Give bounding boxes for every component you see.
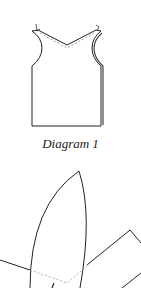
- left-strap-line: [0, 260, 30, 270]
- seam-dashed: [30, 266, 87, 283]
- diagram-2-illustration: [0, 160, 141, 288]
- left-shoulder-thread: [36, 24, 40, 31]
- leaf-piece-outline: [30, 171, 86, 288]
- garment-outline: [32, 30, 101, 126]
- right-edge-shadow: [94, 33, 103, 125]
- thread-mark: [52, 283, 54, 288]
- right-strap-line: [87, 230, 141, 265]
- diagram-1-caption: Diagram 1: [0, 136, 141, 152]
- right-lower-line: [122, 273, 141, 288]
- diagram-1-illustration: [0, 0, 141, 140]
